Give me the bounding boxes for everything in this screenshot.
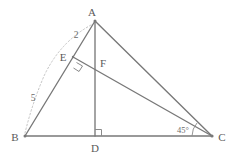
vertex-point-a — [94, 20, 97, 23]
segment-ab — [25, 21, 95, 136]
vertex-label-c: C — [218, 131, 225, 143]
measure-label-be: 5 — [31, 93, 36, 103]
vertex-point-e — [72, 56, 74, 58]
geometry-canvas: A B C D E F 2 5 45° — [0, 0, 237, 156]
vertex-label-d: D — [91, 142, 99, 154]
segment-ec — [73, 57, 212, 136]
vertex-label-b: B — [11, 131, 18, 143]
right-angle-marker-d — [95, 130, 102, 137]
vertex-label-f: F — [100, 57, 106, 69]
segment-ac — [95, 21, 212, 136]
angle-label-c: 45° — [177, 125, 189, 135]
measure-label-ae: 2 — [74, 30, 79, 40]
vertex-label-a: A — [88, 6, 96, 18]
vertex-label-e: E — [60, 51, 67, 63]
right-angle-marker-e — [74, 63, 83, 72]
measurement-arc-ab — [25, 25, 91, 133]
vertex-point-b — [24, 135, 27, 138]
geometry-diagram: A B C D E F 2 5 45° — [0, 0, 237, 156]
vertex-point-c — [210, 134, 213, 137]
